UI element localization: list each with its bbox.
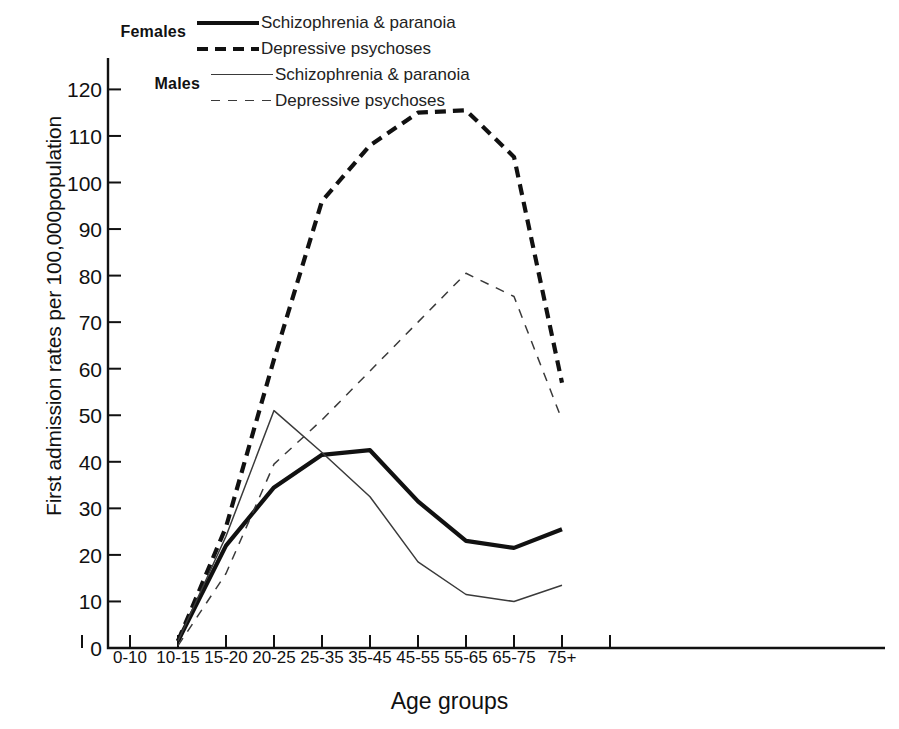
- series-line-2: [178, 411, 562, 641]
- series-line-1: [178, 110, 562, 641]
- y-axis-tick-label: 70: [48, 312, 102, 333]
- y-axis-tick-label: 90: [48, 219, 102, 240]
- y-axis-tick-label: 40: [48, 452, 102, 473]
- chart-plot-area: [0, 0, 899, 729]
- y-axis-tick-label: 50: [48, 405, 102, 426]
- x-axis-tick-label-75+: 75+: [518, 648, 606, 668]
- y-axis-tick-label: 80: [48, 266, 102, 287]
- series-line-3: [178, 273, 562, 645]
- y-axis-tick-label: 10: [48, 591, 102, 612]
- series-line-0: [178, 450, 562, 641]
- y-axis-tick-label: 60: [48, 359, 102, 380]
- y-axis-tick-label: 30: [48, 498, 102, 519]
- chart-figure: Females Schizophrenia & paranoia Depress…: [0, 0, 899, 729]
- y-axis-tick-label: 120: [48, 79, 102, 100]
- y-axis-tick-label: 100: [48, 173, 102, 194]
- y-axis-tick-label: 20: [48, 545, 102, 566]
- y-axis-tick-label: 110: [48, 126, 102, 147]
